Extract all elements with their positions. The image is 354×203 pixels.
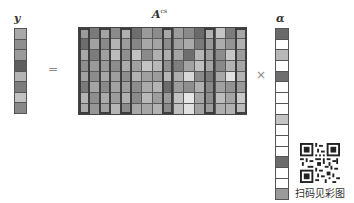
qr-code-icon (300, 143, 340, 183)
y-vector-cell (15, 103, 26, 113)
alpha-vector-cell (276, 115, 288, 125)
y-vector-cell (15, 82, 26, 92)
selected-column-outline (162, 28, 173, 114)
matrix-label-base: A (152, 8, 161, 21)
y-vector (14, 28, 27, 114)
alpha-vector (275, 28, 289, 200)
alpha-vector-cell (276, 72, 288, 82)
alpha-vector-cell (276, 147, 288, 157)
alpha-vector-cell (276, 136, 288, 146)
y-vector-cell (15, 29, 26, 39)
equals-sign: = (48, 62, 58, 76)
y-vector-cell (15, 93, 26, 103)
alpha-vector-cell (276, 61, 288, 71)
alpha-vector-cell (276, 93, 288, 103)
alpha-vector-cell (276, 179, 288, 189)
alpha-vector-cell (276, 157, 288, 167)
qr-caption: 扫码见彩图 (295, 185, 345, 200)
alpha-vector-cell (276, 168, 288, 178)
dictionary-matrix (78, 27, 247, 115)
selected-column-outline (120, 28, 131, 114)
highlight-layer (79, 28, 246, 114)
y-vector-cell (15, 40, 26, 50)
alpha-vector-cell (276, 29, 288, 39)
y-label: y (14, 12, 20, 25)
alpha-label: α (276, 12, 284, 25)
y-vector-cell (15, 61, 26, 71)
matrix-label-superscript: cs (161, 7, 167, 14)
y-vector-cell (15, 72, 26, 82)
alpha-vector-cell (276, 50, 288, 60)
y-vector-cell (15, 50, 26, 60)
alpha-vector-cell (276, 104, 288, 114)
selected-column-outline (204, 28, 215, 114)
alpha-vector-cell (276, 40, 288, 50)
qr-code (300, 143, 340, 183)
matrix-label: Acs (152, 7, 167, 21)
times-sign: × (256, 68, 266, 82)
selected-column-outline (79, 28, 90, 114)
alpha-vector-cell (276, 125, 288, 135)
selected-column-outline (99, 28, 110, 114)
alpha-vector-cell (276, 82, 288, 92)
alpha-vector-cell (276, 189, 288, 199)
selected-column-outline (235, 28, 246, 114)
